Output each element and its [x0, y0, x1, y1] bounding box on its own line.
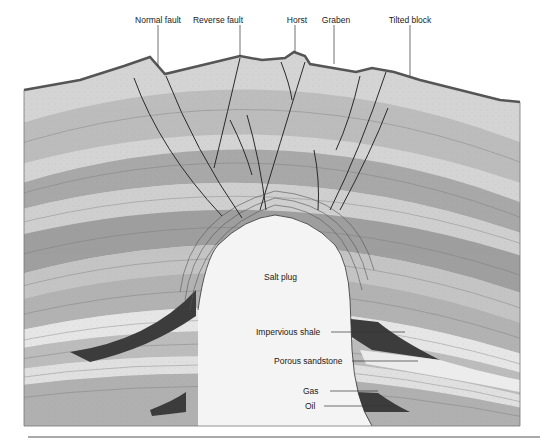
label-impervious-shale: Impervious shale: [256, 327, 320, 337]
label-porous-sandstone: Porous sandstone: [274, 356, 343, 366]
label-tilted-block: Tilted block: [389, 15, 432, 25]
label-reverse-fault: Reverse fault: [193, 15, 243, 25]
label-graben: Graben: [322, 15, 350, 25]
salt-dome-diagram: [0, 0, 540, 446]
label-gas: Gas: [303, 386, 319, 396]
label-normal-fault: Normal fault: [135, 15, 181, 25]
rock-strata: [0, 0, 540, 446]
label-salt-plug: Salt plug: [264, 272, 297, 282]
label-horst: Horst: [287, 15, 307, 25]
label-oil: Oil: [305, 401, 315, 411]
